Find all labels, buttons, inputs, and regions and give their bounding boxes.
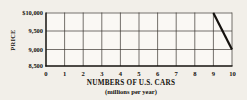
chart-svg: $10,000 9,500 9,000 8,500 0 1 2 3 4 5 6 …: [0, 0, 247, 100]
y-tick-label-9000: 9,000: [29, 46, 43, 53]
y-tick-label-9500: 9,500: [29, 27, 43, 34]
x-axis-subtitle: (millions per year): [105, 88, 157, 96]
price-vs-cars-chart: $10,000 9,500 9,000 8,500 0 1 2 3 4 5 6 …: [0, 0, 247, 100]
x-tick-label-1: 1: [63, 70, 66, 77]
y-tick-label-8500: 8,500: [29, 62, 43, 69]
x-axis-title: NUMBERS OF U.S. CARS: [87, 79, 175, 87]
y-tick-label-10000: $10,000: [22, 9, 43, 16]
y-axis-title: PRICE: [9, 29, 16, 50]
x-tick-label-10: 10: [229, 70, 236, 77]
